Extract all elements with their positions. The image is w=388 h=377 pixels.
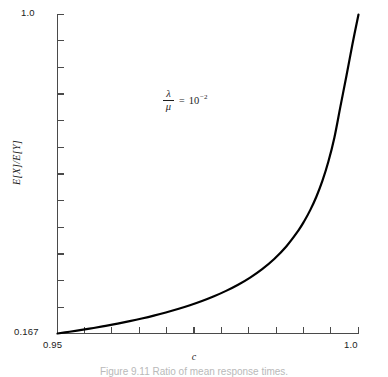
data-series-curve	[58, 15, 359, 334]
y-axis-max-tick-label: 1.0	[21, 7, 35, 18]
y-axis-title: E[X]/E[Y]	[11, 120, 22, 206]
y-axis-min-tick-label: 0.167	[14, 326, 39, 337]
equals-sign: =	[179, 95, 185, 106]
axis-spines	[57, 14, 359, 334]
figure-container: 1.0 0.167 0.95 1.0 E[X]/E[Y] c λ μ = 10 …	[0, 0, 388, 377]
chart-plot-area	[0, 0, 388, 377]
lambda-over-mu-fraction: λ μ	[163, 88, 174, 112]
x-axis-title: c	[0, 351, 388, 362]
x-axis-min-tick-label: 0.95	[43, 339, 62, 350]
x-axis-max-tick-label: 1.0	[344, 339, 358, 350]
figure-caption: Figure 9.11 Ratio of mean response times…	[0, 366, 388, 377]
plot-annotation: λ μ = 10 −2	[163, 88, 207, 112]
annotation-base-value: 10	[189, 95, 200, 106]
mu-symbol: μ	[164, 101, 173, 113]
annotation-exponent-value: −2	[200, 93, 207, 101]
lambda-symbol: λ	[164, 88, 173, 100]
